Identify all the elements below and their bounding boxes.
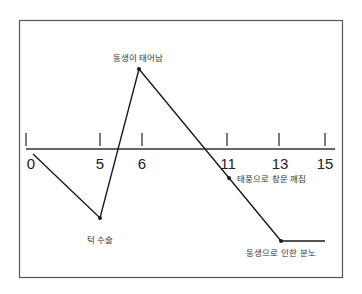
event-label-typhoon: 태풍으로 창문 깨짐 (237, 174, 306, 184)
event-point-typhoon (227, 176, 231, 180)
event-label-anger: 동생으로 인한 분노 (246, 248, 315, 258)
event-points (98, 67, 283, 243)
event-label-sibling-born: 동생이 태어남 (113, 53, 164, 63)
event-point-jaw-surgery (98, 216, 102, 220)
axis-ticks (26, 133, 325, 146)
event-label-jaw-surgery: 턱 수술 (87, 235, 114, 245)
tick-label-13: 13 (272, 155, 289, 172)
tick-label-0: 0 (27, 155, 35, 172)
tick-label-15: 15 (317, 155, 334, 172)
tick-label-6: 6 (138, 155, 146, 172)
axis-tick-labels: 0 5 6 11 13 15 (27, 155, 334, 172)
event-point-anger (279, 239, 283, 243)
event-point-sibling-born (137, 67, 141, 71)
life-timeline-diagram: 0 5 6 11 13 15 턱 수술 동생이 태어남 태풍으로 창문 깨짐 동… (0, 0, 362, 294)
tick-label-5: 5 (96, 155, 104, 172)
